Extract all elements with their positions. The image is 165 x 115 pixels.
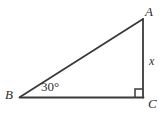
vertex-label-b: B	[5, 88, 13, 101]
triangle-drawing	[0, 0, 165, 115]
geometry-figure: A B C x 30°	[0, 0, 165, 115]
vertex-label-a: A	[145, 5, 153, 18]
vertex-label-c: C	[148, 97, 157, 110]
angle-label-b: 30°	[41, 80, 59, 93]
segment-hypotenuse-ba	[20, 19, 143, 97]
side-label-x: x	[149, 55, 154, 67]
right-angle-square-icon	[135, 89, 143, 97]
